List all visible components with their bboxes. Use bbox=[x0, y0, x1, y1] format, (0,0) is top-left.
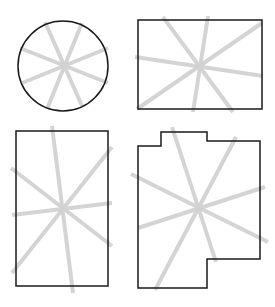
shapes-diagram bbox=[0, 0, 275, 307]
stepped-polygon-line-2 bbox=[155, 137, 236, 290]
wide-rectangle-line-4 bbox=[137, 23, 262, 109]
tall-rectangle-line-3 bbox=[11, 168, 112, 246]
circle-shape bbox=[18, 21, 108, 111]
wide-rectangle-shape bbox=[135, 16, 263, 112]
stepped-polygon-shape bbox=[131, 127, 268, 290]
tall-rectangle-shape bbox=[11, 126, 112, 293]
